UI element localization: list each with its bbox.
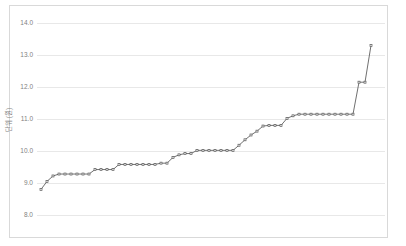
data-point-marker (172, 156, 174, 158)
data-point-marker (292, 115, 294, 117)
data-point-marker (220, 149, 222, 151)
data-point-marker (118, 163, 120, 165)
data-point-marker (256, 130, 258, 132)
data-point-marker (40, 188, 42, 190)
data-point-marker (268, 124, 270, 126)
data-point-marker (190, 153, 192, 155)
data-point-marker (208, 149, 210, 151)
data-point-marker (196, 149, 198, 151)
data-point-marker (334, 113, 336, 115)
data-point-marker (82, 173, 84, 175)
data-point-marker (58, 173, 60, 175)
series-1-line (41, 45, 371, 189)
y-axis-title: 단위 (원) (3, 96, 13, 144)
data-point-marker (286, 117, 288, 119)
y-axis-tick-label: 8.0 (3, 212, 33, 219)
data-point-marker (238, 144, 240, 146)
data-point-marker (142, 163, 144, 165)
data-point-marker (250, 134, 252, 136)
data-point-marker (274, 124, 276, 126)
series-line-chart (37, 23, 385, 215)
data-point-marker (280, 124, 282, 126)
data-point-marker (88, 173, 90, 175)
y-axis-tick-label: 10.0 (3, 148, 33, 155)
data-point-marker (70, 173, 72, 175)
data-point-marker (262, 125, 264, 127)
data-point-marker (124, 163, 126, 165)
data-point-marker (202, 149, 204, 151)
data-point-marker (76, 173, 78, 175)
data-point-marker (316, 113, 318, 115)
data-point-marker (310, 113, 312, 115)
data-point-marker (154, 163, 156, 165)
data-point-marker (64, 173, 66, 175)
data-point-marker (328, 113, 330, 115)
y-axis-tick-label: 9.0 (3, 180, 33, 187)
chart-root: 14.013.012.011.010.09.08.0 단위 (원) (0, 0, 406, 246)
data-point-marker (322, 113, 324, 115)
data-point-marker (130, 163, 132, 165)
data-point-marker (298, 113, 300, 115)
data-point-marker (304, 113, 306, 115)
data-point-marker (358, 81, 360, 83)
data-point-marker (100, 169, 102, 171)
series-1-markers (40, 44, 372, 190)
y-axis-tick-label: 13.0 (3, 52, 33, 59)
data-point-marker (340, 113, 342, 115)
data-point-marker (136, 163, 138, 165)
data-point-marker (106, 169, 108, 171)
data-point-marker (166, 162, 168, 164)
data-point-marker (352, 113, 354, 115)
data-point-marker (52, 175, 54, 177)
data-point-marker (148, 163, 150, 165)
data-point-marker (244, 139, 246, 141)
data-point-marker (94, 169, 96, 171)
data-point-marker (370, 44, 372, 46)
data-point-marker (160, 162, 162, 164)
data-point-marker (184, 153, 186, 155)
data-point-marker (46, 180, 48, 182)
y-axis-tick-label: 12.0 (3, 84, 33, 91)
data-point-marker (112, 169, 114, 171)
data-point-marker (214, 149, 216, 151)
data-point-marker (364, 81, 366, 83)
data-point-marker (178, 154, 180, 156)
data-point-marker (226, 149, 228, 151)
data-point-marker (232, 149, 234, 151)
data-point-marker (346, 113, 348, 115)
y-axis-tick-label: 14.0 (3, 20, 33, 27)
